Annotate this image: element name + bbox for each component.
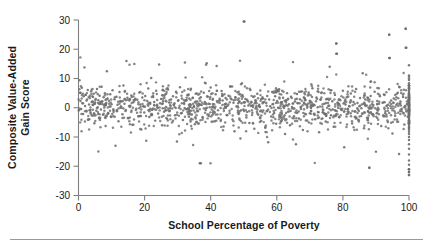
- scatter-point: [393, 118, 395, 120]
- scatter-point: [100, 100, 102, 102]
- scatter-point: [368, 128, 370, 130]
- scatter-point: [367, 114, 369, 116]
- scatter-point: [208, 90, 210, 92]
- scatter-point: [233, 130, 235, 132]
- scatter-point: [152, 95, 154, 97]
- scatter-point: [223, 93, 225, 95]
- scatter-point: [351, 120, 353, 122]
- scatter-point: [279, 112, 281, 114]
- scatter-point: [161, 124, 163, 126]
- scatter-point: [140, 108, 142, 110]
- scatter-point: [402, 96, 404, 98]
- scatter-point: [190, 117, 192, 119]
- scatter-point: [95, 91, 97, 93]
- scatter-point: [99, 126, 101, 128]
- scatter-point: [223, 110, 225, 112]
- scatter-point: [329, 92, 331, 94]
- scatter-point: [272, 113, 274, 115]
- scatter-point: [205, 102, 207, 104]
- scatter-point: [402, 112, 404, 114]
- scatter-point: [220, 126, 222, 128]
- scatter-point: [125, 60, 127, 62]
- scatter-point: [243, 20, 245, 22]
- scatter-point: [135, 109, 137, 111]
- scatter-point: [259, 89, 261, 91]
- scatter-point: [138, 120, 140, 122]
- scatter-point: [98, 103, 100, 105]
- scatter-point: [245, 130, 247, 132]
- scatter-point: [107, 112, 109, 114]
- scatter-point: [369, 95, 371, 97]
- scatter-point: [125, 109, 127, 111]
- scatter-point: [87, 115, 89, 117]
- scatter-point: [354, 91, 356, 93]
- scatter-point: [197, 105, 199, 107]
- scatter-point: [104, 125, 106, 127]
- scatter-point: [273, 106, 275, 108]
- scatter-point: [155, 81, 157, 83]
- scatter-point: [156, 106, 158, 108]
- scatter-point: [272, 110, 274, 112]
- scatter-point: [311, 104, 313, 106]
- scatter-point: [228, 109, 230, 111]
- scatter-point: [321, 123, 323, 125]
- scatter-point: [126, 99, 128, 101]
- scatter-point: [345, 115, 347, 117]
- scatter-point: [219, 99, 221, 101]
- scatter-point: [175, 96, 177, 98]
- scatter-point: [229, 101, 231, 103]
- scatter-point: [112, 115, 114, 117]
- scatter-point: [265, 124, 267, 126]
- scatter-point: [396, 83, 398, 85]
- scatter-point: [278, 107, 280, 109]
- scatter-point: [342, 96, 344, 98]
- scatter-point: [110, 116, 112, 118]
- scatter-point: [149, 103, 151, 105]
- scatter-point: [408, 113, 410, 115]
- scatter-point: [304, 112, 306, 114]
- scatter-point: [347, 107, 349, 109]
- scatter-point: [375, 150, 377, 152]
- scatter-point: [156, 93, 158, 95]
- scatter-point: [398, 86, 400, 88]
- scatter-point: [130, 109, 132, 111]
- scatter-point: [196, 100, 198, 102]
- scatter-point: [191, 127, 193, 129]
- scatter-point: [92, 96, 94, 98]
- scatter-point: [256, 92, 258, 94]
- scatter-point: [342, 102, 344, 104]
- scatter-point: [91, 100, 93, 102]
- scatter-point: [238, 93, 240, 95]
- scatter-point: [109, 101, 111, 103]
- scatter-point: [243, 110, 245, 112]
- scatter-point: [162, 98, 164, 100]
- scatter-point: [350, 115, 352, 117]
- scatter-point: [295, 143, 297, 145]
- scatter-point: [181, 112, 183, 114]
- scatter-point: [397, 97, 399, 99]
- scatter-point: [212, 105, 214, 107]
- scatter-point: [80, 118, 82, 120]
- scatter-point: [408, 136, 410, 138]
- scatter-point: [87, 96, 89, 98]
- scatter-point: [167, 119, 169, 121]
- scatter-point: [347, 95, 349, 97]
- scatter-point: [109, 105, 111, 107]
- scatter-point: [129, 123, 131, 125]
- scatter-point: [139, 91, 141, 93]
- scatter-point: [283, 80, 285, 82]
- scatter-point: [300, 90, 302, 92]
- scatter-point: [104, 94, 106, 96]
- scatter-point: [232, 124, 234, 126]
- scatter-point: [184, 116, 186, 118]
- scatter-point: [294, 100, 296, 102]
- scatter-point: [267, 90, 269, 92]
- x-axis-label: School Percentage of Poverty: [78, 219, 410, 231]
- scatter-point: [408, 95, 410, 97]
- scatter-point: [146, 103, 148, 105]
- scatter-point: [383, 94, 385, 96]
- scatter-point: [159, 120, 161, 122]
- scatter-point: [253, 128, 255, 130]
- scatter-point: [123, 116, 125, 118]
- scatter-point: [138, 107, 140, 109]
